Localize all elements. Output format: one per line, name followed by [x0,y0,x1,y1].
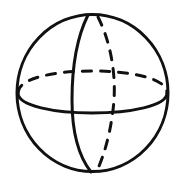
sphere-figure [0,0,178,180]
meridian-front-solid [72,15,91,172]
sphere-icon [0,0,178,180]
meridian-back-dashed [97,17,114,171]
equator-front-solid [18,93,167,113]
equator-back-dashed [18,71,167,93]
sphere-outline [17,15,168,172]
